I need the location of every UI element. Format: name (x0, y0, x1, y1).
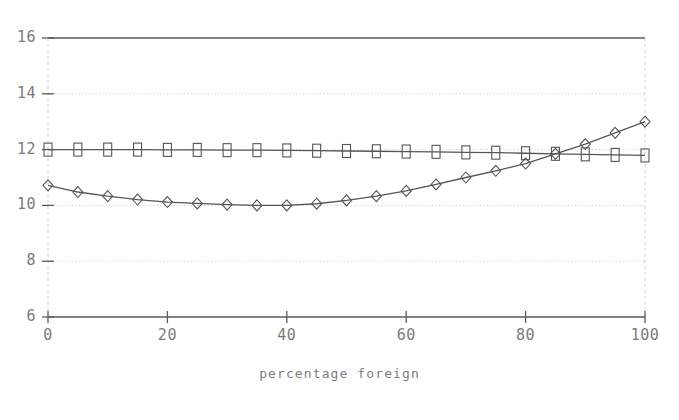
series-line (48, 122, 645, 206)
chart-plot-area (0, 0, 679, 420)
series-line (48, 150, 645, 156)
chart-figure: 1614121086020406080100 percentage foreig… (0, 0, 679, 420)
y-tick-label: 6 (26, 307, 36, 325)
x-tick-label: 80 (496, 326, 556, 344)
x-axis-title: percentage foreign (0, 366, 679, 381)
x-tick-label: 60 (376, 326, 436, 344)
y-tick-label: 16 (17, 28, 36, 46)
x-tick-label: 20 (137, 326, 197, 344)
x-tick-label: 100 (615, 326, 675, 344)
y-tick-label: 12 (17, 140, 36, 158)
y-tick-label: 8 (26, 251, 36, 269)
y-tick-label: 14 (17, 84, 36, 102)
series-diamonds (43, 116, 650, 211)
y-tick-label: 10 (17, 195, 36, 213)
x-tick-label: 40 (257, 326, 317, 344)
x-tick-label: 0 (18, 326, 78, 344)
